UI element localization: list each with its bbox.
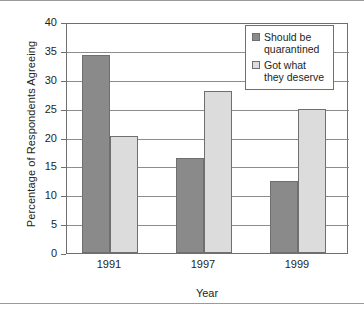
bar-1999-series-0 (270, 181, 298, 253)
legend-label-line-1: Should be (264, 31, 311, 43)
y-axis-tick-label: 10 (26, 190, 57, 201)
page-rule-top (0, 0, 364, 1)
bar-1999-series-1 (298, 109, 326, 253)
legend-label-line-2: they deserve (264, 71, 324, 83)
legend-swatch-series-0-icon (252, 33, 260, 41)
x-axis-title: Year (66, 287, 348, 299)
bar-1991-series-0 (82, 55, 110, 253)
y-axis-tick-label: 0 (26, 248, 57, 259)
y-axis-tick (61, 254, 66, 255)
y-axis-tick-label: 20 (26, 133, 57, 144)
bar-1997-series-0 (176, 158, 204, 253)
legend-swatch-series-1-icon (252, 61, 260, 69)
bar-1997-series-1 (204, 91, 232, 253)
legend-label-series-0: Should be quarantined (264, 31, 319, 55)
legend-label-line-2: quarantined (264, 43, 319, 55)
y-axis-tick-label: 35 (26, 46, 57, 57)
legend-label-series-1: Got what they deserve (264, 59, 324, 83)
x-axis-label-1999: 1999 (267, 258, 327, 270)
x-axis-label-1997: 1997 (173, 258, 233, 270)
y-axis-tick-label: 15 (26, 161, 57, 172)
y-axis-tick-label: 5 (26, 219, 57, 230)
y-axis-tick-label: 40 (26, 17, 57, 28)
bar-1991-series-1 (110, 136, 138, 253)
legend-item: Should be quarantined (252, 31, 328, 55)
legend-label-line-1: Got what (264, 59, 306, 71)
y-axis-tick-label: 30 (26, 75, 57, 86)
y-axis-tick-label: 25 (26, 104, 57, 115)
chart-figure: Percentage of Respondents Agreeing Year … (0, 0, 364, 316)
x-axis-label-1991: 1991 (79, 258, 139, 270)
page-rule-bottom (0, 303, 364, 304)
chart-legend: Should be quarantined Got what they dese… (245, 25, 334, 90)
legend-item: Got what they deserve (252, 59, 328, 83)
